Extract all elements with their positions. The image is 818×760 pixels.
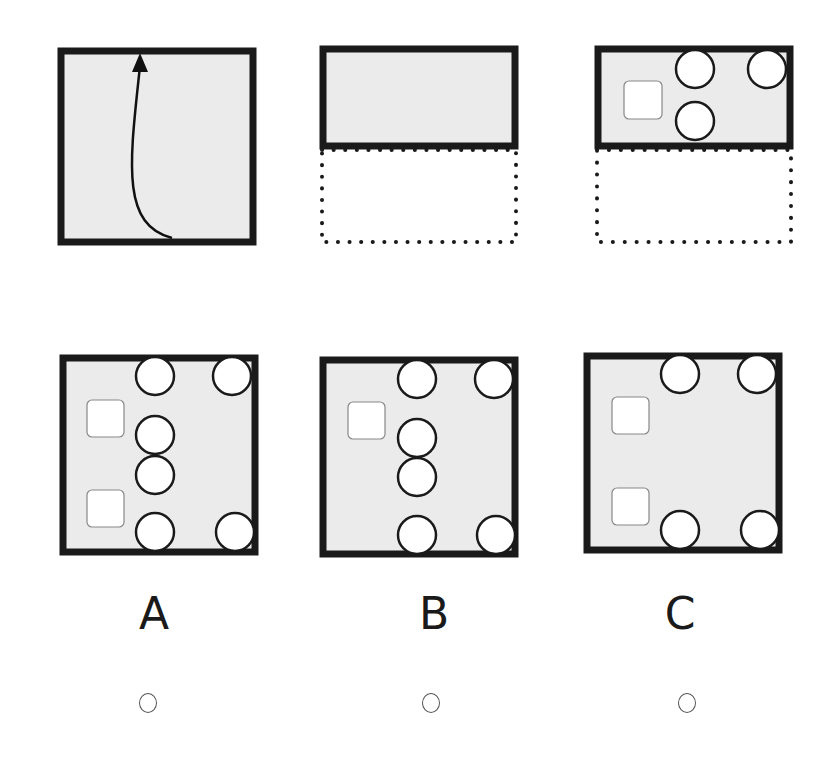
option-c-figure (587, 355, 779, 550)
circle-hole (475, 360, 513, 398)
paper-folding-diagram (0, 0, 818, 760)
circle-hole (216, 513, 254, 551)
circle-hole (136, 357, 174, 395)
square-hole (87, 490, 124, 527)
dotted-outline (597, 150, 791, 242)
circle-hole (398, 360, 436, 398)
square-hole (348, 402, 385, 439)
option-a-label: A (124, 592, 184, 636)
circle-hole (136, 513, 174, 551)
circle-hole (477, 516, 515, 554)
option-c-radio[interactable] (678, 693, 696, 713)
step-1-sheet (61, 51, 253, 242)
option-b-radio[interactable] (422, 693, 440, 713)
option-a-radio[interactable] (139, 693, 157, 713)
circle-hole (676, 102, 714, 140)
dotted-outline (322, 150, 516, 242)
step-3-punched-sheet (597, 49, 791, 242)
step-2-folded-sheet (322, 49, 516, 242)
circle-hole (676, 50, 714, 88)
circle-hole (661, 511, 699, 549)
circle-hole (136, 456, 174, 494)
option-b-figure (323, 360, 515, 554)
square-hole (612, 397, 649, 434)
circle-hole (661, 355, 699, 393)
circle-hole (748, 50, 786, 88)
option-c-label: C (650, 592, 710, 636)
option-a-figure (63, 357, 255, 552)
square-hole (624, 81, 662, 119)
square-hole (612, 488, 649, 525)
circle-hole (738, 355, 776, 393)
circle-hole (741, 511, 779, 549)
square-hole (87, 400, 124, 437)
circle-hole (136, 416, 174, 454)
circle-hole (398, 419, 436, 457)
circle-hole (398, 458, 436, 496)
circle-hole (213, 357, 251, 395)
option-b-label: B (404, 592, 464, 636)
circle-hole (398, 516, 436, 554)
